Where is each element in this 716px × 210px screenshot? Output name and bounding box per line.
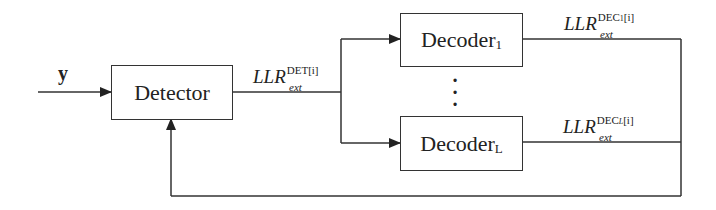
decoder-1-label: Decoder — [421, 27, 496, 53]
input-label-y: y — [58, 62, 68, 85]
decoder-ellipsis: ··· — [450, 74, 460, 110]
decoder-1-block: Decoder1 — [400, 13, 523, 67]
llr-decL-label: LLRextDECL[i] — [563, 116, 634, 138]
detector-block: Detector — [111, 65, 233, 120]
decoder-L-subscript: L — [495, 141, 503, 157]
detector-label: Detector — [134, 80, 210, 106]
decoder-L-block: DecoderL — [400, 116, 523, 171]
llr-dec1-label: LLRextDEC1[i] — [564, 13, 634, 35]
llr-det-label: LLRextDET[i] — [253, 66, 319, 88]
decoder-1-subscript: 1 — [496, 37, 503, 53]
decoder-L-label: Decoder — [420, 131, 495, 157]
